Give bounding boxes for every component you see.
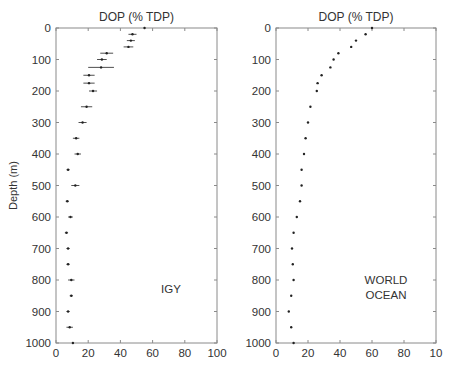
data-point — [364, 33, 366, 35]
y-tick-label: 200 — [32, 85, 51, 97]
data-point — [329, 66, 331, 68]
data-point — [65, 232, 67, 234]
annotation-igy: IGY — [161, 283, 181, 295]
series-igy — [65, 27, 146, 344]
data-point — [307, 121, 309, 123]
y-tick-label: 400 — [252, 148, 271, 160]
x-tick-label: 20 — [82, 347, 95, 359]
data-point — [371, 27, 373, 29]
data-point — [291, 247, 293, 249]
data-point — [299, 200, 301, 202]
x-tick-label: 80 — [398, 347, 411, 359]
data-point — [75, 137, 77, 139]
data-point — [88, 74, 90, 76]
y-tick-label: 900 — [252, 306, 271, 318]
data-point — [300, 169, 302, 171]
data-point — [70, 295, 72, 297]
x-tick-label: 100 — [207, 347, 226, 359]
data-point — [66, 200, 68, 202]
y-tick-label: 0 — [265, 22, 271, 34]
data-point — [92, 90, 94, 92]
data-point — [290, 326, 292, 328]
data-point — [303, 153, 305, 155]
annotation-world: WORLD — [365, 274, 408, 286]
y-tick-label: 500 — [252, 180, 271, 192]
y-tick-label: 800 — [252, 274, 271, 286]
x-tick-label: 60 — [366, 347, 379, 359]
y-tick-label: 900 — [32, 306, 51, 318]
data-point — [309, 106, 311, 108]
dop-depth-chart: 0204060801000100200300400500600700800900… — [0, 0, 449, 367]
y-tick-label: 1000 — [245, 337, 271, 349]
panel-left: 0204060801000100200300400500600700800900… — [7, 10, 227, 359]
data-point — [127, 46, 129, 48]
plot-frame — [276, 28, 436, 343]
x-tick-label: 0 — [273, 347, 279, 359]
data-point — [143, 27, 145, 29]
data-point — [67, 310, 69, 312]
data-point — [292, 263, 294, 265]
data-point — [72, 342, 74, 344]
data-point — [320, 74, 322, 76]
data-point — [288, 310, 290, 312]
x-tick-label: 10 — [430, 347, 443, 359]
series-world-ocean — [288, 27, 374, 344]
data-point — [355, 39, 357, 41]
y-tick-label: 600 — [252, 211, 271, 223]
data-point — [131, 33, 133, 35]
y-tick-label: 700 — [252, 243, 271, 255]
data-point — [304, 137, 306, 139]
y-tick-label: 800 — [32, 274, 51, 286]
data-point — [67, 263, 69, 265]
data-point — [332, 58, 334, 60]
data-point — [350, 46, 352, 48]
y-tick-label: 1000 — [25, 337, 51, 349]
data-point — [100, 66, 102, 68]
plot-frame — [56, 28, 217, 343]
data-point — [130, 39, 132, 41]
data-point — [67, 169, 69, 171]
y-tick-label: 200 — [252, 85, 271, 97]
chart-title: DOP (% TDP) — [319, 10, 394, 24]
y-tick-label: 500 — [32, 180, 51, 192]
data-point — [88, 82, 90, 84]
data-point — [69, 216, 71, 218]
data-point — [81, 121, 83, 123]
data-point — [292, 279, 294, 281]
data-point — [316, 90, 318, 92]
panel-right: 0204060801001002003004005006007008009001… — [245, 10, 442, 359]
y-tick-label: 0 — [45, 22, 51, 34]
data-point — [85, 106, 87, 108]
data-point — [296, 216, 298, 218]
x-tick-label: 40 — [114, 347, 127, 359]
x-tick-label: 60 — [146, 347, 159, 359]
data-point — [74, 184, 76, 186]
y-tick-label: 400 — [32, 148, 51, 160]
data-point — [68, 326, 70, 328]
x-tick-label: 20 — [302, 347, 315, 359]
y-axis-label: Depth (m) — [7, 161, 19, 210]
y-tick-label: 300 — [252, 117, 271, 129]
data-point — [77, 153, 79, 155]
annotation-ocean: OCEAN — [366, 289, 407, 301]
data-point — [290, 295, 292, 297]
y-tick-label: 100 — [32, 54, 51, 66]
data-point — [106, 52, 108, 54]
data-point — [316, 82, 318, 84]
data-point — [70, 279, 72, 281]
data-point — [292, 232, 294, 234]
data-point — [300, 184, 302, 186]
y-tick-label: 300 — [32, 117, 51, 129]
x-tick-label: 0 — [53, 347, 59, 359]
data-point — [292, 342, 294, 344]
data-point — [67, 247, 69, 249]
y-tick-label: 700 — [32, 243, 51, 255]
data-point — [337, 52, 339, 54]
x-tick-label: 40 — [334, 347, 347, 359]
chart-title: DOP (% TDP) — [99, 10, 174, 24]
x-tick-label: 80 — [178, 347, 191, 359]
y-tick-label: 600 — [32, 211, 51, 223]
data-point — [101, 58, 103, 60]
y-tick-label: 100 — [252, 54, 271, 66]
